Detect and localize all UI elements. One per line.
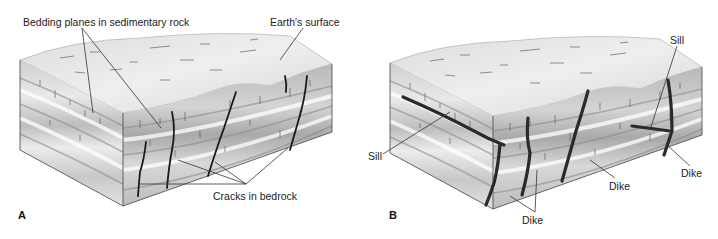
dike-middle-label: Dike [609, 180, 630, 192]
earths-surface-label: Earth's surface [270, 16, 340, 28]
dike-right-label: Dike [681, 167, 702, 179]
cracks-in-bedrock-label: Cracks in bedrock [213, 190, 298, 202]
sill-left-label: Sill [368, 150, 382, 162]
dike-right-leader [667, 145, 690, 166]
bedrock-block-b [390, 36, 702, 209]
sill-top-label: Sill [670, 34, 684, 46]
dike-bottom-label: Dike [522, 214, 543, 226]
panel-a: Bedding planes in sedimentary rock Earth… [18, 16, 340, 221]
panel-b: Sill Sill Dike Dike Dike B [368, 34, 702, 226]
panel-b-letter: B [389, 209, 397, 221]
panel-a-letter: A [18, 209, 26, 221]
rock-block-diagram: Bedding planes in sedimentary rock Earth… [0, 0, 718, 239]
bedding-planes-label: Bedding planes in sedimentary rock [23, 16, 190, 28]
bedrock-block-a [20, 33, 332, 206]
